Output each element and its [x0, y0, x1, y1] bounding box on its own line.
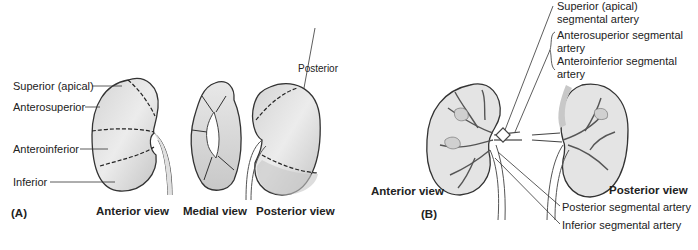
- medial-view-caption: Medial view: [183, 205, 247, 218]
- anterior-kidney-b: [427, 84, 505, 220]
- label-anterosuperior-segmental-l2: artery: [557, 42, 585, 55]
- posterior-kidney-b: [547, 84, 628, 220]
- anterior-kidney-a: [92, 78, 172, 195]
- anterior-view-caption-a: Anterior view: [96, 205, 169, 218]
- label-anteroinferior: Anteroinferior: [13, 143, 79, 156]
- anterior-view-caption-b: Anterior view: [371, 185, 444, 198]
- label-anteroinferior-segmental-l2: artery: [557, 68, 585, 81]
- panel-b-tag: (B): [421, 208, 437, 221]
- label-anterosuperior: Anterosuperior: [13, 101, 85, 114]
- label-superior-segmental-l1: Superior (apical): [557, 0, 638, 13]
- label-inferior-segmental: Inferior segmental artery: [562, 219, 681, 232]
- label-anterosuperior-segmental-l1: Anterosuperior segmental: [557, 29, 683, 42]
- label-posterior: Posterior: [298, 62, 338, 75]
- renal-vessels-b: [494, 128, 562, 142]
- posterior-kidney-a: [246, 84, 320, 200]
- label-anteroinferior-segmental-l1: Anteroinferior segmental: [557, 55, 677, 68]
- posterior-view-caption-a: Posterior view: [256, 205, 335, 218]
- label-posterior-segmental: Posterior segmental artery: [562, 201, 691, 214]
- label-superior-segmental-l2: segmental artery: [557, 13, 639, 26]
- panel-a-tag: (A): [11, 207, 27, 220]
- label-superior-apical: Superior (apical): [13, 80, 94, 93]
- medial-kidney-a: [191, 82, 241, 191]
- label-inferior: Inferior: [13, 176, 47, 189]
- posterior-view-caption-b: Posterior view: [609, 184, 688, 197]
